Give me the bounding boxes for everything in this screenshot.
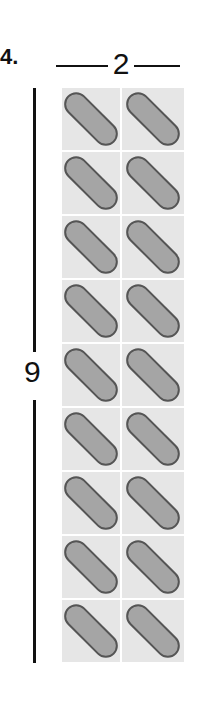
- rows-dimension-line: [33, 400, 36, 663]
- pill-capsule-icon: [121, 87, 185, 151]
- problem-number: 4.: [0, 44, 18, 70]
- grid-cell: [62, 216, 120, 278]
- pill-capsule-icon: [121, 599, 185, 663]
- pill-capsule-icon: [59, 471, 123, 535]
- pill-capsule-icon: [59, 215, 123, 279]
- grid-cell: [62, 408, 120, 470]
- pill-capsule-icon: [59, 151, 123, 215]
- grid-cell: [122, 152, 184, 214]
- grid-cell: [62, 344, 120, 406]
- pill-capsule-icon: [59, 535, 123, 599]
- rows-dimension-line: [33, 88, 36, 352]
- grid-cell: [122, 472, 184, 534]
- grid-cell: [62, 88, 120, 150]
- grid-cell: [62, 152, 120, 214]
- grid-cell: [62, 600, 120, 662]
- array-grid: [62, 88, 184, 662]
- rows-label: 9: [24, 352, 48, 392]
- pill-capsule-icon: [121, 343, 185, 407]
- columns-label: 2: [108, 48, 134, 80]
- pill-capsule-icon: [59, 279, 123, 343]
- pill-capsule-icon: [121, 471, 185, 535]
- pill-capsule-icon: [59, 599, 123, 663]
- pill-capsule-icon: [121, 407, 185, 471]
- grid-cell: [122, 88, 184, 150]
- grid-cell: [62, 280, 120, 342]
- grid-cell: [122, 600, 184, 662]
- pill-capsule-icon: [59, 343, 123, 407]
- grid-cell: [122, 408, 184, 470]
- pill-capsule-icon: [59, 87, 123, 151]
- pill-capsule-icon: [59, 407, 123, 471]
- pill-capsule-icon: [121, 215, 185, 279]
- grid-cell: [122, 216, 184, 278]
- dimension-line: [134, 65, 180, 67]
- grid-cell: [122, 280, 184, 342]
- dimension-line: [56, 65, 108, 67]
- grid-cell: [62, 536, 120, 598]
- columns-dimension: 2: [56, 48, 180, 78]
- pill-capsule-icon: [121, 151, 185, 215]
- pill-capsule-icon: [121, 279, 185, 343]
- grid-cell: [62, 472, 120, 534]
- grid-cell: [122, 344, 184, 406]
- pill-capsule-icon: [121, 535, 185, 599]
- grid-cell: [122, 536, 184, 598]
